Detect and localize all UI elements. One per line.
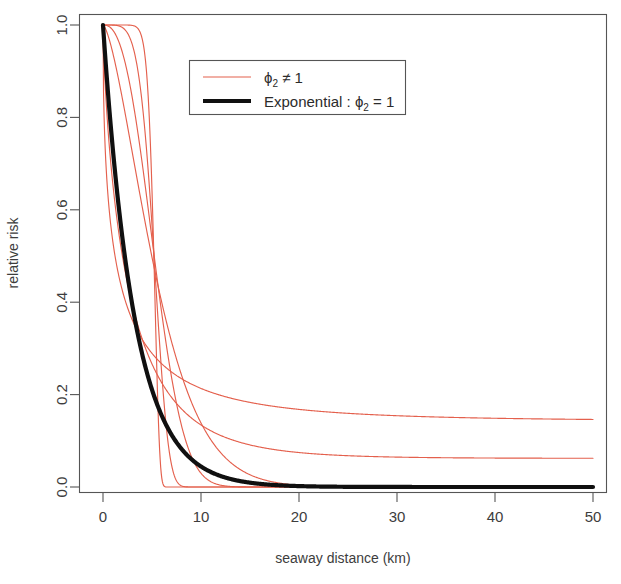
y-axis-title: relative risk: [5, 217, 21, 289]
x-tick-label-20: 20: [291, 508, 308, 525]
chart-legend: ϕ2 ≠ 1 Exponential : ϕ2 = 1: [190, 61, 406, 115]
y-tick-label-0.8: 0.8: [53, 107, 70, 128]
y-tick-label-0.6: 0.6: [53, 199, 70, 220]
x-axis-ticks: [103, 493, 593, 502]
x-axis-title: seaway distance (km): [275, 550, 410, 566]
chart-figure: 01020304050 0.00.20.40.60.81.0 seaway di…: [0, 0, 621, 584]
x-tick-label-10: 10: [193, 508, 210, 525]
y-tick-label-0.4: 0.4: [53, 292, 70, 313]
y-tick-label-0.2: 0.2: [53, 384, 70, 405]
y-tick-label-0.0: 0.0: [53, 477, 70, 498]
y-axis-tick-labels: 0.00.20.40.60.81.0: [53, 15, 70, 498]
x-tick-label-30: 30: [389, 508, 406, 525]
x-tick-label-40: 40: [487, 508, 504, 525]
y-axis-ticks: [70, 25, 79, 487]
relative-risk-line-chart: 01020304050 0.00.20.40.60.81.0 seaway di…: [0, 0, 621, 584]
x-tick-label-50: 50: [585, 508, 602, 525]
x-axis-tick-labels: 01020304050: [99, 508, 602, 525]
y-tick-label-1.0: 1.0: [53, 15, 70, 36]
x-tick-label-0: 0: [99, 508, 107, 525]
